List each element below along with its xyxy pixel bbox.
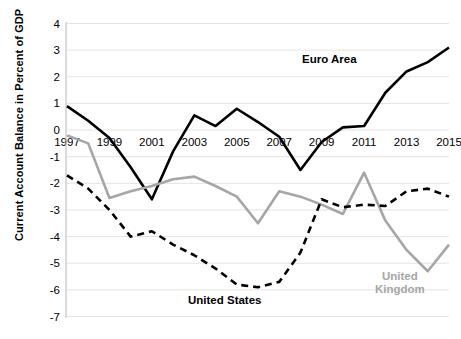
euro-area-label: Euro Area bbox=[302, 53, 357, 66]
y-tick-label: -6 bbox=[50, 284, 60, 296]
y-tick-label: 1 bbox=[54, 97, 60, 109]
y-tick-label: 0 bbox=[54, 124, 60, 136]
united-states-label: United States bbox=[188, 294, 262, 307]
current-account-balance-chart: Current Account Balance in Percent of GD… bbox=[0, 0, 461, 339]
x-tick-label: 2013 bbox=[394, 136, 420, 148]
x-tick-label: 2003 bbox=[182, 136, 208, 148]
series-lines bbox=[67, 47, 449, 287]
series-line-united-kingdom bbox=[67, 135, 449, 271]
series-line-euro-area bbox=[67, 47, 449, 199]
y-tick-label: -3 bbox=[50, 204, 60, 216]
united-kingdom-label: UnitedKingdom bbox=[375, 270, 425, 296]
y-axis-ticks: 43210-1-2-3-4-5-6-7 bbox=[50, 18, 61, 323]
x-tick-label: 2005 bbox=[224, 136, 250, 148]
y-tick-label: 3 bbox=[54, 44, 60, 56]
y-tick-label: 2 bbox=[54, 71, 60, 83]
y-tick-label: -5 bbox=[50, 257, 60, 269]
y-tick-label: 4 bbox=[54, 18, 61, 30]
y-tick-label: -2 bbox=[50, 177, 60, 189]
y-tick-label: -1 bbox=[50, 151, 60, 163]
y-tick-label: -4 bbox=[50, 231, 61, 243]
y-tick-label: -7 bbox=[50, 311, 60, 323]
x-tick-label: 2015 bbox=[436, 136, 461, 148]
x-tick-label: 2001 bbox=[139, 136, 165, 148]
x-tick-label: 2011 bbox=[352, 136, 377, 148]
